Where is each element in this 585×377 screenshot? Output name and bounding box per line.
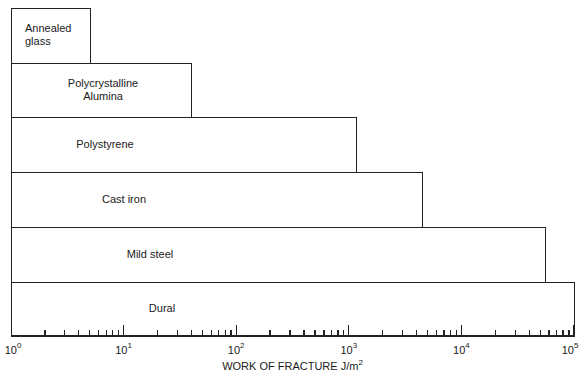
minor-tick: [118, 330, 119, 336]
minor-tick: [382, 330, 383, 336]
minor-tick: [548, 330, 549, 336]
minor-tick: [540, 330, 541, 336]
minor-tick: [337, 330, 338, 336]
minor-tick: [416, 330, 417, 336]
minor-tick: [78, 330, 79, 336]
minor-tick: [44, 330, 45, 336]
bar-label: Polystyrene: [35, 138, 175, 151]
minor-tick: [106, 330, 107, 336]
minor-tick: [450, 330, 451, 336]
x-axis-line: [11, 335, 575, 337]
minor-tick: [436, 330, 437, 336]
minor-tick: [202, 330, 203, 336]
x-axis-label-exponent: 2: [358, 358, 362, 367]
minor-tick: [331, 330, 332, 336]
work-of-fracture-chart: Annealed glassPolycrystalline AluminaPol…: [0, 0, 585, 377]
bar-label: Polycrystalline Alumina: [33, 77, 173, 103]
major-tick: [236, 325, 237, 336]
minor-tick: [211, 330, 212, 336]
minor-tick: [343, 330, 344, 336]
minor-tick: [157, 330, 158, 336]
minor-tick: [556, 330, 557, 336]
tick-label-10e1: 101: [115, 342, 132, 356]
minor-tick: [64, 330, 65, 336]
major-tick: [123, 325, 124, 336]
minor-tick: [191, 330, 192, 336]
major-tick: [461, 325, 462, 336]
major-tick: [348, 325, 349, 336]
minor-tick: [456, 330, 457, 336]
bar-label: Dural: [92, 302, 232, 315]
tick-label-10e2: 102: [228, 342, 245, 356]
minor-tick: [314, 330, 315, 336]
tick-label-10e3: 103: [340, 342, 357, 356]
x-axis-label: WORK OF FRACTURE J/m2: [0, 358, 585, 372]
minor-tick: [568, 330, 569, 336]
minor-tick: [112, 330, 113, 336]
minor-tick: [225, 330, 226, 336]
tick-label-10e0: 100: [5, 342, 22, 356]
minor-tick: [402, 330, 403, 336]
minor-tick: [427, 330, 428, 336]
minor-tick: [529, 330, 530, 336]
minor-tick: [303, 330, 304, 336]
minor-tick: [323, 330, 324, 336]
minor-tick: [230, 330, 231, 336]
minor-tick: [443, 330, 444, 336]
bar-label: Annealed glass: [25, 22, 165, 48]
minor-tick: [269, 330, 270, 336]
bar-label: Cast iron: [54, 193, 194, 206]
minor-tick: [98, 330, 99, 336]
minor-tick: [89, 330, 90, 336]
minor-tick: [218, 330, 219, 336]
minor-tick: [515, 330, 516, 336]
minor-tick: [562, 330, 563, 336]
minor-tick: [495, 330, 496, 336]
x-axis-label-text: WORK OF FRACTURE J/m: [222, 360, 358, 372]
tick-label-10e5: 105: [562, 342, 579, 356]
minor-tick: [177, 330, 178, 336]
bar-label: Mild steel: [80, 248, 220, 261]
major-tick: [573, 325, 574, 336]
tick-label-10e4: 104: [453, 342, 470, 356]
minor-tick: [289, 330, 290, 336]
